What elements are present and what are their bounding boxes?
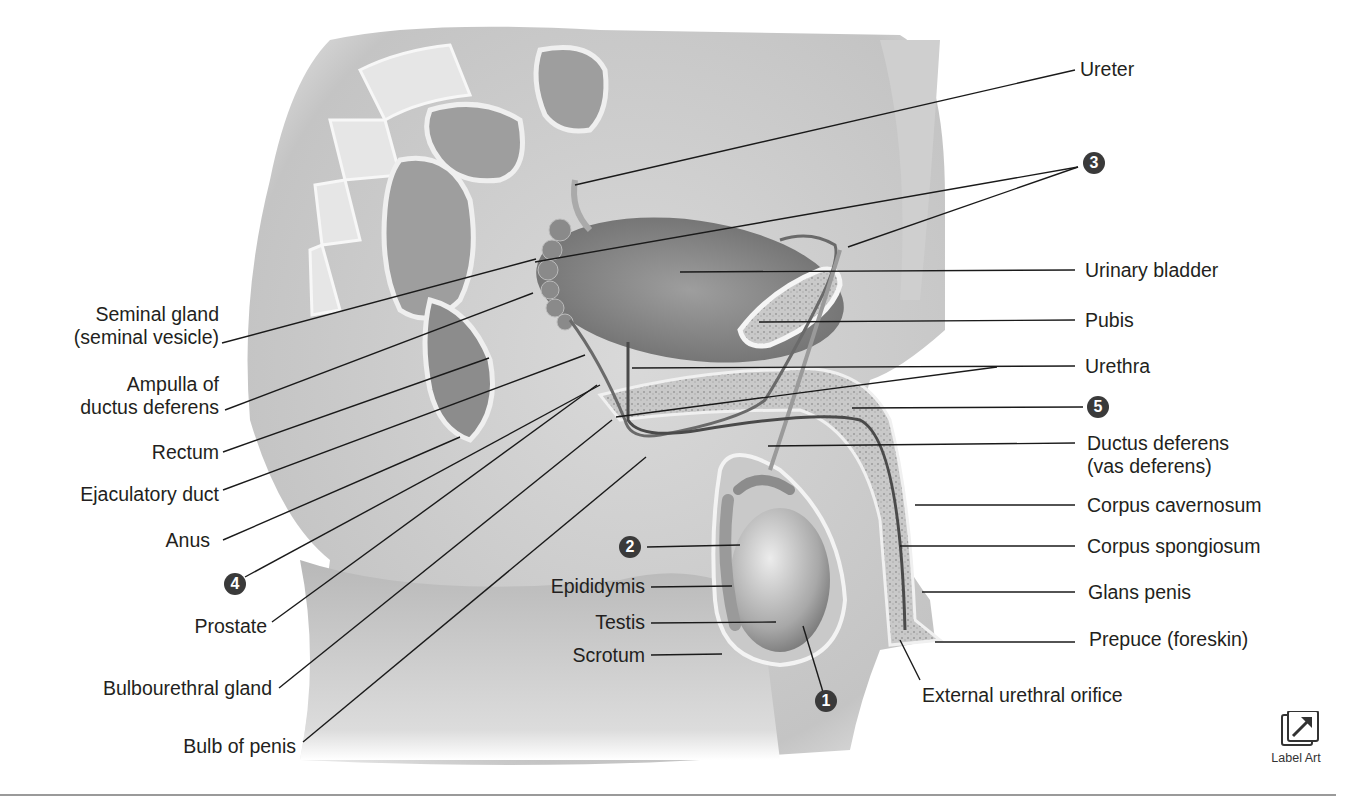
label-pubis: Pubis (1085, 309, 1134, 332)
label-corpus-spongiosum: Corpus spongiosum (1087, 535, 1260, 558)
label-line: ductus deferens (80, 396, 219, 419)
label-line: Ureter (1080, 58, 1134, 81)
label-scrotum: Scrotum (572, 644, 645, 667)
marker-4: 4 (224, 573, 246, 595)
label-ejaculatory-duct: Ejaculatory duct (80, 483, 219, 506)
marker-5: 5 (1087, 396, 1109, 418)
label-anus: Anus (166, 529, 210, 552)
label-urinary-bladder: Urinary bladder (1085, 259, 1218, 282)
label-bulb-of-penis: Bulb of penis (183, 735, 296, 758)
label-line: Ejaculatory duct (80, 483, 219, 506)
marker-1: 1 (815, 690, 837, 712)
label-epididymis: Epididymis (551, 575, 645, 598)
label-bulbourethral-gland: Bulbourethral gland (103, 677, 272, 700)
marker-3: 3 (1083, 152, 1105, 174)
label-external-urethral-orifice: External urethral orifice (922, 684, 1123, 707)
label-urethra: Urethra (1085, 355, 1150, 378)
label-line: Rectum (152, 441, 219, 464)
label-prostate: Prostate (194, 615, 267, 638)
label-glans-penis: Glans penis (1088, 581, 1191, 604)
label-line: Corpus spongiosum (1087, 535, 1260, 558)
label-rectum: Rectum (152, 441, 219, 464)
label-line: Urethra (1085, 355, 1150, 378)
label-ureter: Ureter (1080, 58, 1134, 81)
label-ampulla: Ampulla of ductus deferens (80, 373, 219, 419)
label-line: Bulb of penis (183, 735, 296, 758)
label-ductus-deferens: Ductus deferens (vas deferens) (1087, 432, 1229, 478)
label-line: Pubis (1085, 309, 1134, 332)
label-line: Ductus deferens (1087, 432, 1229, 455)
label-line: (vas deferens) (1087, 455, 1229, 478)
label-line: Urinary bladder (1085, 259, 1218, 282)
marker-2: 2 (619, 536, 641, 558)
label-prepuce: Prepuce (foreskin) (1089, 628, 1248, 651)
label-line: Corpus cavernosum (1087, 494, 1262, 517)
label-line: Glans penis (1088, 581, 1191, 604)
label-line: (seminal vesicle) (74, 326, 219, 349)
label-line: Bulbourethral gland (103, 677, 272, 700)
label-art-button[interactable]: Label Art (1266, 711, 1326, 771)
label-line: Ampulla of (80, 373, 219, 396)
label-testis: Testis (595, 611, 645, 634)
label-line: Anus (166, 529, 210, 552)
label-seminal-gland: Seminal gland (seminal vesicle) (74, 303, 219, 349)
label-line: Prepuce (foreskin) (1089, 628, 1248, 651)
label-line: Prostate (194, 615, 267, 638)
label-line: Seminal gland (74, 303, 219, 326)
label-corpus-cavernosum: Corpus cavernosum (1087, 494, 1262, 517)
label-art-caption: Label Art (1266, 751, 1326, 765)
label-art-icon (1266, 711, 1326, 751)
bottom-divider (0, 794, 1336, 796)
